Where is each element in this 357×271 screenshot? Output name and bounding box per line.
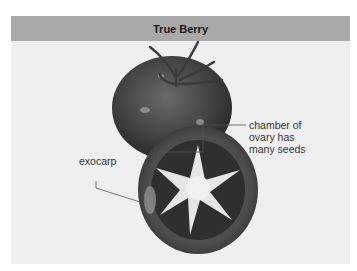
- cut-tomato-half: [138, 126, 258, 254]
- chamber-label-line: chamber of: [249, 119, 306, 131]
- chamber-label: chamber of ovary has many seeds: [249, 119, 306, 155]
- chamber-label-line: many seeds: [249, 143, 306, 155]
- chamber-label-line: ovary has: [249, 131, 306, 143]
- exocarp-label: exocarp: [79, 155, 116, 167]
